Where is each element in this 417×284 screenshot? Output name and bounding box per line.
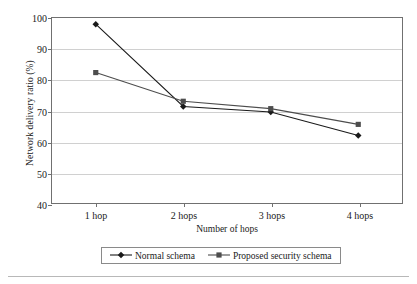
data-point-marker [216, 252, 221, 257]
y-axis-title: Network delivery ratio (%) [25, 23, 35, 203]
chart-legend: Normal schemaProposed security schema [101, 247, 341, 264]
y-tick-label: 70 [37, 106, 47, 117]
legend-square-icon [208, 250, 230, 262]
y-tick-label: 80 [37, 75, 47, 86]
y-tick-label: 40 [37, 200, 47, 211]
data-point-marker [118, 251, 125, 258]
data-point-marker [356, 122, 361, 127]
data-point-marker [181, 99, 186, 104]
series-line [96, 73, 359, 125]
y-tick-label: 100 [32, 13, 47, 24]
y-tick-mark [48, 205, 52, 206]
x-tick-mark [96, 203, 97, 207]
legend-label: Normal schema [135, 251, 195, 261]
x-axis-title: Number of hops [51, 224, 403, 234]
plot-area: 405060708090100 1 hop2 hops3 hops4 hops [51, 17, 403, 204]
series-layer [52, 18, 402, 203]
data-point-marker [268, 106, 273, 111]
x-tick-mark [360, 203, 361, 207]
legend-entry: Proposed security schema [208, 250, 332, 262]
x-tick-label: 3 hops [259, 210, 285, 221]
x-tick-label: 2 hops [171, 210, 197, 221]
data-point-marker [355, 132, 361, 138]
x-tick-mark [184, 203, 185, 207]
bottom-divider [8, 276, 409, 277]
x-tick-mark [272, 203, 273, 207]
legend-label: Proposed security schema [233, 251, 332, 261]
legend-entry: Normal schema [110, 250, 195, 262]
legend-diamond-icon [110, 250, 132, 262]
chart-figure: Network delivery ratio (%) 4050607080901… [0, 0, 417, 284]
y-tick-label: 90 [37, 44, 47, 55]
y-tick-label: 60 [37, 137, 47, 148]
y-tick-label: 50 [37, 168, 47, 179]
x-tick-label: 1 hop [85, 210, 108, 221]
series-line [96, 24, 359, 135]
data-point-marker [93, 70, 98, 75]
x-tick-label: 4 hops [347, 210, 373, 221]
